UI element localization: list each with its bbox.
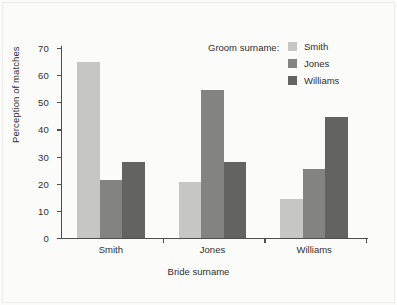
y-tick-label: 10: [38, 205, 49, 216]
legend-label: Jones: [304, 58, 329, 69]
bar-smith-jones: [100, 180, 123, 238]
y-tick-label: 0: [44, 233, 49, 244]
y-tick-label: 30: [38, 151, 49, 162]
y-tick: 10: [57, 211, 62, 212]
y-tick: 30: [57, 157, 62, 158]
y-tick: 70: [57, 48, 62, 49]
x-axis-label-williams: Williams: [296, 244, 331, 255]
bar-williams-smith: [280, 199, 303, 238]
y-tick: 60: [57, 75, 62, 76]
x-axis-label-jones: Jones: [200, 244, 225, 255]
y-tick-label: 50: [38, 97, 49, 108]
y-tick: 40: [57, 129, 62, 130]
y-tick: 20: [57, 184, 62, 185]
bar-jones-williams: [224, 162, 247, 238]
x-tick: [366, 238, 367, 243]
legend-item-jones[interactable]: Jones: [288, 58, 329, 69]
x-axis-title: Bride surname: [0, 266, 397, 277]
legend-item-smith[interactable]: Smith: [288, 41, 328, 52]
legend-title: Groom surname:: [208, 42, 279, 53]
legend-swatch-icon: [288, 76, 297, 85]
y-tick-label: 20: [38, 178, 49, 189]
y-tick: 0: [57, 238, 62, 239]
y-tick-label: 40: [38, 124, 49, 135]
bar-williams-williams: [325, 117, 348, 238]
legend-swatch-icon: [288, 42, 297, 51]
bar-jones-jones: [201, 90, 224, 238]
chart-figure: Perception of matches 010203040506070 Sm…: [0, 0, 397, 305]
legend-label: Williams: [304, 75, 339, 86]
x-axis-label-smith: Smith: [99, 244, 123, 255]
legend-label: Smith: [304, 41, 328, 52]
y-axis-title: Perception of matches: [10, 46, 21, 143]
y-tick-label: 70: [38, 43, 49, 54]
legend-swatch-icon: [288, 59, 297, 68]
x-tick: [163, 238, 164, 243]
bar-williams-jones: [303, 169, 326, 238]
legend-item-williams[interactable]: Williams: [288, 75, 339, 86]
bar-smith-smith: [77, 62, 100, 238]
y-tick-label: 60: [38, 70, 49, 81]
y-tick: 50: [57, 102, 62, 103]
bar-smith-williams: [122, 162, 145, 238]
x-axis-line: [61, 238, 368, 239]
bar-jones-smith: [179, 182, 202, 238]
x-tick: [264, 238, 265, 243]
